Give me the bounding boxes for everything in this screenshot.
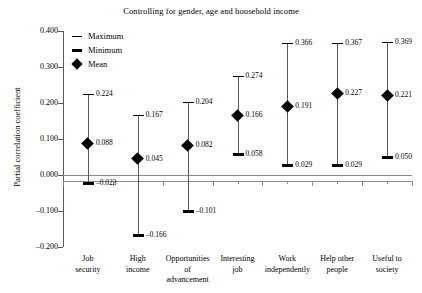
minimum-marker [183,210,194,213]
x-category-line: advancement [163,275,213,286]
x-tick-major [262,181,263,186]
y-tick-mark [58,139,63,140]
maximum-marker [83,94,94,95]
y-tick-mark [58,31,63,32]
minimum-value-label: 0.058 [246,149,263,158]
x-category-line: Opportunities [163,254,213,265]
mean-value-label: 0.227 [345,88,362,97]
x-category-line: High [113,254,163,265]
x-category-line: job [213,265,263,276]
maximum-marker [382,42,393,43]
maximum-marker [133,115,144,116]
x-category-line: Interesting [213,254,263,265]
y-tick-label-wrap: –0.100 [0,206,58,216]
chart-container: Controlling for gender, age and househol… [0,0,422,293]
minimum-marker-icon [70,49,84,52]
minimum-value-label: 0.029 [345,160,362,169]
maximum-value-label: 0.274 [246,71,263,80]
mean-marker [231,109,244,122]
legend-item-mean: Mean [70,57,123,71]
y-tick-mark [58,67,63,68]
minimum-marker [332,164,343,167]
y-axis-line [63,31,64,247]
x-category-label: Interestingjob [213,254,263,275]
legend-label-maximum: Maximum [88,31,123,41]
mean-marker [381,89,394,102]
y-tick-mark [58,103,63,104]
x-tick-major [362,181,363,186]
minimum-marker [382,156,393,159]
y-tick-mark [58,175,63,176]
mean-value-label: 0.088 [96,138,113,147]
x-category-line: society [362,265,412,276]
x-category-label: Workindependently [262,254,312,275]
x-tick-major [213,181,214,186]
y-tick-label: –0.200 [22,242,58,251]
mean-marker [131,152,144,165]
minimum-marker [282,164,293,167]
mean-marker [281,100,294,113]
zero-line [63,175,412,176]
x-category-line: of [163,265,213,276]
y-tick-label-wrap: 0.000 [0,170,58,180]
legend-item-maximum: Maximum [70,29,123,43]
y-tick-label-wrap: 0.400 [0,26,58,36]
range-stem [138,115,139,235]
x-category-line: independently [262,265,312,276]
maximum-marker-icon [70,36,84,37]
x-category-line: Useful to [362,254,412,265]
minimum-value-label: 0.050 [395,152,412,161]
x-tick-major [63,181,64,186]
range-stem [337,43,338,165]
minimum-value-label: –0.166 [146,230,167,239]
maximum-value-label: 0.369 [395,37,412,46]
legend-item-minimum: Minimum [70,43,123,57]
legend-label-minimum: Minimum [88,45,122,55]
x-category-line: Help other [312,254,362,265]
x-category-line: Job [63,254,113,265]
y-tick-label-wrap: 0.100 [0,134,58,144]
y-tick-label: 0.200 [22,98,58,107]
maximum-value-label: 0.204 [196,97,213,106]
maximum-value-label: 0.366 [295,38,312,47]
x-category-label: Opportunitiesofadvancement [163,254,213,286]
maximum-marker [282,43,293,44]
legend: Maximum Minimum Mean [70,29,123,71]
x-category-line: security [63,265,113,276]
x-category-label: Jobsecurity [63,254,113,275]
x-category-label: Useful tosociety [362,254,412,275]
minimum-value-label: –0.101 [196,206,217,215]
x-category-line: income [113,265,163,276]
range-stem [188,102,189,212]
mean-value-label: 0.191 [295,101,312,110]
x-category-label: Help otherpeople [312,254,362,275]
mean-value-label: 0.082 [196,140,213,149]
minimum-marker [133,234,144,237]
mean-marker-icon [70,60,84,68]
y-tick-label-wrap: 0.200 [0,98,58,108]
mean-value-label: 0.166 [246,110,263,119]
maximum-value-label: 0.224 [96,89,113,98]
mean-marker [181,139,194,152]
x-category-line: people [312,265,362,276]
y-tick-label: 0.300 [22,62,58,71]
x-category-label: Highincome [113,254,163,275]
x-tick-major [312,181,313,186]
maximum-marker [233,76,244,77]
x-tick-minor [387,181,388,184]
maximum-value-label: 0.367 [345,38,362,47]
x-tick-major [163,181,164,186]
minimum-marker [233,153,244,156]
x-category-line: Work [262,254,312,265]
mean-marker [82,137,95,150]
minimum-marker [83,182,94,185]
y-tick-label: 0.400 [22,26,58,35]
x-tick-minor [287,181,288,184]
chart-title: Controlling for gender, age and househol… [0,6,422,16]
y-tick-mark [58,211,63,212]
legend-label-mean: Mean [88,59,107,69]
maximum-value-label: 0.167 [146,110,163,119]
x-tick-major [412,181,413,186]
mean-value-label: 0.045 [146,154,163,163]
y-tick-label: 0.000 [22,170,58,179]
